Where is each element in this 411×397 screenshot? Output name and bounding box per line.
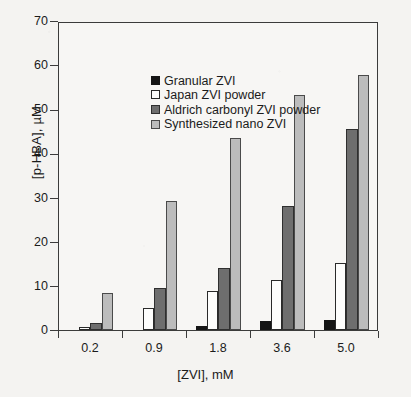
bar — [79, 327, 90, 330]
y-tick-label: 60 — [14, 59, 48, 72]
x-tick-mark — [58, 331, 59, 338]
y-tick-label: 40 — [14, 147, 48, 160]
bar — [218, 268, 229, 330]
x-tick-label: 0.2 — [58, 341, 122, 355]
chart-legend: Granular ZVIJapan ZVI powderAldrich carb… — [151, 73, 320, 131]
y-tick-mark — [50, 154, 58, 155]
x-tick-mark — [250, 331, 251, 338]
bar — [166, 201, 177, 330]
legend-swatch-icon — [151, 120, 160, 129]
y-tick-label: 0 — [14, 324, 48, 337]
bar-chart-figure: [p-HBA], µM 010203040506070 Granular ZVI… — [0, 0, 411, 397]
x-tick-label: 1.8 — [186, 341, 250, 355]
bar — [346, 129, 357, 330]
bar — [282, 206, 293, 330]
y-tick-mark — [50, 330, 58, 331]
bar — [335, 263, 346, 330]
bar — [102, 293, 113, 330]
x-tick-label: 3.6 — [250, 341, 314, 355]
plot-area: Granular ZVIJapan ZVI powderAldrich carb… — [58, 22, 378, 331]
x-axis-label: [ZVI], mM — [0, 367, 411, 382]
x-tick-label: 0.9 — [122, 341, 186, 355]
x-tick-mark — [186, 331, 187, 338]
y-tick-label: 20 — [14, 236, 48, 249]
legend-label: Synthesized nano ZVI — [164, 117, 286, 132]
y-tick-mark — [50, 198, 58, 199]
legend-item: Synthesized nano ZVI — [151, 117, 320, 132]
y-tick-mark — [50, 21, 58, 22]
x-tick-mark — [314, 331, 315, 338]
legend-label: Japan ZVI powder — [164, 88, 265, 103]
x-tick-mark — [122, 331, 123, 338]
legend-item: Granular ZVI — [151, 73, 320, 88]
legend-label: Aldrich carbonyl ZVI powder — [164, 103, 320, 118]
legend-swatch-icon — [151, 90, 160, 99]
y-tick-mark — [50, 286, 58, 287]
bar — [358, 75, 369, 330]
legend-swatch-icon — [151, 105, 160, 114]
y-tick-mark — [50, 65, 58, 66]
legend-swatch-icon — [151, 76, 160, 85]
y-tick-label: 30 — [14, 192, 48, 205]
bar — [196, 326, 207, 330]
y-tick-label: 10 — [14, 280, 48, 293]
bar — [90, 323, 101, 330]
bar — [230, 138, 241, 330]
bar — [143, 308, 154, 331]
y-tick-label: 50 — [14, 103, 48, 116]
y-tick-label: 70 — [14, 15, 48, 28]
bar — [324, 320, 335, 330]
x-tick-label: 5.0 — [314, 341, 378, 355]
legend-label: Granular ZVI — [164, 74, 236, 89]
bar — [271, 280, 282, 330]
y-tick-mark — [50, 242, 58, 243]
x-tick-mark — [378, 331, 379, 338]
legend-item: Aldrich carbonyl ZVI powder — [151, 102, 320, 117]
bar — [154, 288, 165, 330]
bar — [207, 291, 218, 330]
y-axis-label: [p-HBA], µM — [29, 83, 44, 203]
y-tick-mark — [50, 110, 58, 111]
legend-item: Japan ZVI powder — [151, 88, 320, 103]
bar — [260, 321, 271, 330]
